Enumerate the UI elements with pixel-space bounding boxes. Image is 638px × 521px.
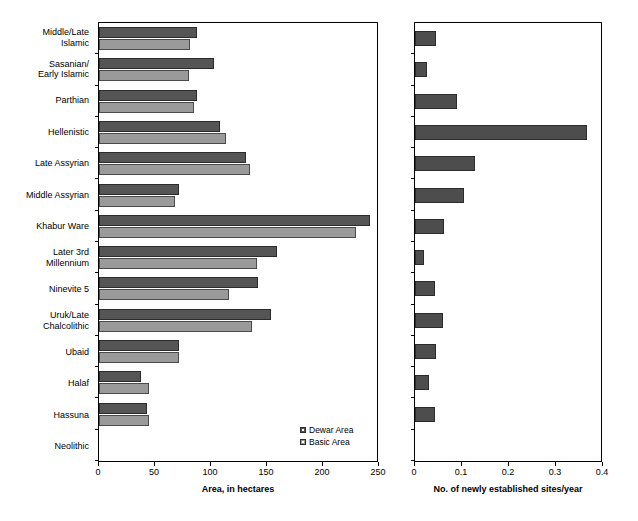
bar-group-row xyxy=(99,305,377,336)
legend: Dewar Area Basic Area xyxy=(300,424,353,448)
y-axis-category-label: Middle Assyrian xyxy=(0,179,94,210)
bar-row xyxy=(415,54,601,85)
bar-row xyxy=(415,398,601,429)
y-axis-category-label: Parthian xyxy=(0,85,94,116)
y-axis-category-label: Late Assyrian xyxy=(0,148,94,179)
bar-dewar-area xyxy=(99,27,197,38)
x-axis-tick xyxy=(555,462,556,466)
plot-area-right xyxy=(414,22,602,462)
x-axis-tick xyxy=(508,462,509,466)
bar-row xyxy=(415,117,601,148)
bar-basic-area xyxy=(99,352,179,363)
x-axis-tick-label: 0.3 xyxy=(549,467,562,477)
y-axis-category-label: Sasanian/ Early Islamic xyxy=(0,53,94,84)
y-axis-category-label: Later 3rd Millennium xyxy=(0,242,94,273)
bar-basic-area xyxy=(99,227,356,238)
bar-group-row xyxy=(99,86,377,117)
bar-dewar-area xyxy=(99,184,179,195)
bar-row xyxy=(415,211,601,242)
bar-basic-area xyxy=(99,415,149,426)
bar-new-sites-per-year xyxy=(415,31,436,46)
bar-basic-area xyxy=(99,164,250,175)
bar-row xyxy=(415,179,601,210)
bar-basic-area xyxy=(99,133,226,144)
bar-row xyxy=(415,242,601,273)
x-axis-tick xyxy=(414,462,415,466)
y-axis-category-label: Middle/Late Islamic xyxy=(0,22,94,53)
bar-dewar-area xyxy=(99,58,214,69)
bar-new-sites-per-year xyxy=(415,219,444,234)
bar-new-sites-per-year xyxy=(415,281,435,296)
bar-group-row xyxy=(99,54,377,85)
x-axis-tick-label: 250 xyxy=(370,467,385,477)
x-axis-title-left: Area, in hectares xyxy=(98,484,378,494)
bar-new-sites-per-year xyxy=(415,375,429,390)
bar-new-sites-per-year xyxy=(415,407,435,422)
y-axis-tick xyxy=(95,460,99,461)
bar-dewar-area xyxy=(99,309,271,320)
bar-rows-left xyxy=(99,23,377,461)
chart-panel-area-hectares: Period Middle/Late IslamicSasanian/ Earl… xyxy=(0,0,395,521)
bar-row xyxy=(415,367,601,398)
bar-basic-area xyxy=(99,258,257,269)
y-axis-category-label: Hassuna xyxy=(0,399,94,430)
bar-basic-area xyxy=(99,102,194,113)
x-axis-left: Area, in hectares 050100150200250 xyxy=(98,462,378,492)
x-axis-tick-label: 0.1 xyxy=(455,467,468,477)
bar-new-sites-per-year xyxy=(415,62,427,77)
bar-row xyxy=(415,86,601,117)
x-axis-tick-label: 0.4 xyxy=(596,467,609,477)
y-axis-category-labels: Middle/Late IslamicSasanian/ Early Islam… xyxy=(0,22,94,462)
bar-row xyxy=(415,148,601,179)
x-axis-title-right: No. of newly established sites/year xyxy=(414,484,602,494)
figure-root: Period Middle/Late IslamicSasanian/ Earl… xyxy=(0,0,638,521)
bar-dewar-area xyxy=(99,277,258,288)
bar-basic-area xyxy=(99,383,149,394)
legend-item-basic-area: Basic Area xyxy=(300,436,353,448)
x-axis-tick xyxy=(266,462,267,466)
bar-row xyxy=(415,430,601,461)
bar-group-row xyxy=(99,23,377,54)
x-axis-tick xyxy=(98,462,99,466)
x-axis-tick-label: 150 xyxy=(258,467,273,477)
bar-dewar-area xyxy=(99,121,220,132)
x-axis-tick xyxy=(210,462,211,466)
bar-basic-area xyxy=(99,289,229,300)
bar-dewar-area xyxy=(99,371,141,382)
bar-new-sites-per-year xyxy=(415,313,443,328)
bar-new-sites-per-year xyxy=(415,344,436,359)
y-axis-tick xyxy=(411,460,415,461)
y-axis-category-label: Uruk/Late Chalcolithic xyxy=(0,305,94,336)
bar-dewar-area xyxy=(99,215,370,226)
y-axis-category-label: Khabur Ware xyxy=(0,211,94,242)
bar-group-row xyxy=(99,179,377,210)
bar-new-sites-per-year xyxy=(415,188,464,203)
y-axis-category-label: Neolithic xyxy=(0,430,94,461)
bar-dewar-area xyxy=(99,340,179,351)
legend-label-dewar: Dewar Area xyxy=(309,424,353,436)
plot-area-left xyxy=(98,22,378,462)
x-axis-tick-label: 200 xyxy=(314,467,329,477)
bar-new-sites-per-year xyxy=(415,156,475,171)
bar-group-row xyxy=(99,148,377,179)
bar-group-row xyxy=(99,367,377,398)
x-axis-tick xyxy=(322,462,323,466)
y-axis-category-label: Hellenistic xyxy=(0,116,94,147)
x-axis-tick-label: 0 xyxy=(411,467,416,477)
bar-dewar-area xyxy=(99,152,246,163)
x-axis-tick xyxy=(461,462,462,466)
y-axis-category-label: Halaf xyxy=(0,368,94,399)
legend-item-dewar-area: Dewar Area xyxy=(300,424,353,436)
y-axis-category-label: Ubaid xyxy=(0,336,94,367)
bar-group-row xyxy=(99,273,377,304)
bar-group-row xyxy=(99,242,377,273)
chart-panel-new-sites-per-year: No. of newly established sites/year 00.1… xyxy=(395,0,638,521)
x-axis-tick-label: 0.2 xyxy=(502,467,515,477)
x-axis-tick xyxy=(602,462,603,466)
bar-new-sites-per-year xyxy=(415,250,424,265)
x-axis-tick xyxy=(154,462,155,466)
bar-basic-area xyxy=(99,196,175,207)
bar-row xyxy=(415,305,601,336)
bar-basic-area xyxy=(99,70,189,81)
bar-new-sites-per-year xyxy=(415,94,457,109)
